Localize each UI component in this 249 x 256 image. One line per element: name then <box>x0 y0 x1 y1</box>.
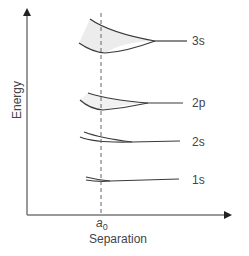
level-3s-shade <box>79 19 155 53</box>
a0-label: a0 <box>96 216 108 232</box>
level-1s-line <box>110 179 179 181</box>
level-1s-curves <box>86 177 179 181</box>
level-label-2s: 2s <box>192 135 205 149</box>
level-2s-curves <box>80 132 180 142</box>
level-3s-curves <box>79 19 187 53</box>
level-label-3s: 3s <box>192 34 205 48</box>
level-2s-line <box>132 141 180 142</box>
level-2p-curves <box>80 93 183 110</box>
y-axis-label: Energy <box>10 81 24 119</box>
x-axis-label: Separation <box>89 232 147 246</box>
energy-level-diagram: 3s 2p 2s 1s a0 Separation Energy <box>0 0 249 256</box>
level-label-1s: 1s <box>192 173 205 187</box>
level-label-2p: 2p <box>192 96 206 110</box>
